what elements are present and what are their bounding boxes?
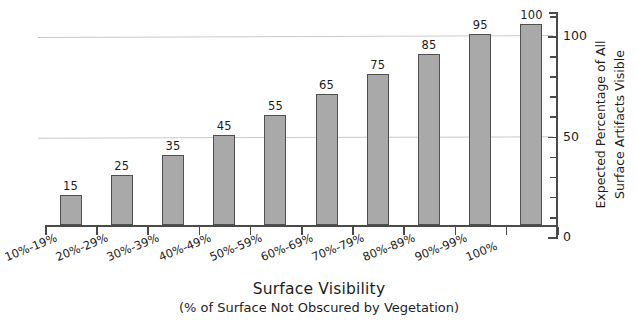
bar-group: 95 <box>455 0 506 225</box>
bar-value-label: 25 <box>92 160 152 172</box>
bar-group: 15 <box>45 0 96 225</box>
bar <box>418 54 440 225</box>
x-axis-tick-labels: 10%-19%20%-29%30%-39%40%-49%50%-59%60%-6… <box>45 238 557 282</box>
bar-value-label: 75 <box>348 59 408 71</box>
y-axis-minor-tick <box>550 16 556 18</box>
bar-group: 85 <box>403 0 454 225</box>
bar-value-label: 15 <box>41 180 101 192</box>
y-axis-minor-tick <box>550 96 556 98</box>
bar-group: 100 <box>506 0 557 225</box>
y-axis-minor-tick <box>550 116 556 118</box>
y-axis-title-line-2: Surface Artifacts Visible <box>610 50 629 199</box>
bar-value-label: 65 <box>297 79 357 91</box>
y-axis-minor-tick <box>550 217 556 219</box>
y-axis-title: Expected Percentage of All Surface Artif… <box>588 12 632 237</box>
bar-value-label: 85 <box>399 39 459 51</box>
y-axis-major-tick <box>548 137 558 139</box>
bar-value-label: 55 <box>245 100 305 112</box>
bar-chart: 152535455565758595100 10%-19%20%-29%30%-… <box>0 0 638 321</box>
y-axis-minor-tick <box>550 76 556 78</box>
bar-value-label: 35 <box>143 140 203 152</box>
bar-group: 55 <box>250 0 301 225</box>
y-axis-title-line-1: Expected Percentage of All <box>591 40 610 208</box>
y-axis-minor-tick <box>550 56 556 58</box>
y-axis-line <box>556 12 558 237</box>
x-axis-tick-label: 10%-19% <box>3 231 59 264</box>
bar <box>111 175 133 225</box>
y-axis-major-tick <box>548 237 558 239</box>
bar <box>367 74 389 225</box>
bar <box>469 34 491 225</box>
bar-group: 65 <box>301 0 352 225</box>
bar <box>162 155 184 225</box>
x-axis-title-main: Surface Visibility <box>0 280 638 299</box>
y-axis-major-tick <box>548 36 558 38</box>
y-axis-tick-label: 0 <box>563 230 571 243</box>
y-axis-minor-tick <box>550 177 556 179</box>
bar-series: 152535455565758595100 <box>45 0 557 225</box>
x-axis-tick <box>506 227 508 235</box>
bar <box>520 24 542 225</box>
bar-value-label: 45 <box>194 120 254 132</box>
bar-group: 75 <box>352 0 403 225</box>
y-axis-minor-tick <box>550 197 556 199</box>
bar-group: 25 <box>96 0 147 225</box>
x-axis-title-subtitle: (% of Surface Not Obscured by Vegetation… <box>0 299 638 316</box>
y-axis-tick-label: 100 <box>563 29 587 42</box>
bar <box>316 94 338 225</box>
bar-group: 45 <box>199 0 250 225</box>
x-axis-title: Surface Visibility (% of Surface Not Obs… <box>0 280 638 316</box>
bar-group: 35 <box>147 0 198 225</box>
bar <box>213 135 235 225</box>
y-axis-top-cap <box>549 12 558 14</box>
bar <box>264 115 286 225</box>
bar <box>60 195 82 225</box>
y-axis-tick-label: 50 <box>563 130 579 143</box>
y-axis-minor-tick <box>550 157 556 159</box>
